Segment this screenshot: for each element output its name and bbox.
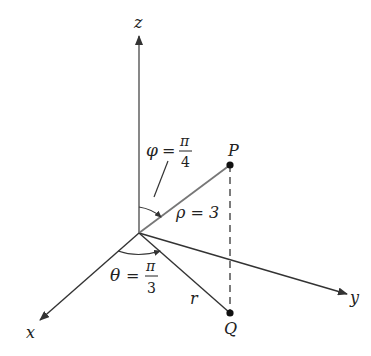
rho-label: ρ = 3: [175, 203, 219, 222]
point-p: [226, 161, 233, 168]
theta-symbol: θ: [110, 265, 120, 285]
x-axis-label: x: [26, 323, 35, 342]
theta-denominator: 3: [147, 280, 156, 296]
point-p-label: P: [227, 141, 239, 160]
phi-leader-line: [154, 161, 168, 197]
phi-denominator: 4: [181, 154, 190, 170]
spherical-coordinates-diagram: z x y P Q φ = π 4 ρ = 3 θ = π 3 r: [0, 0, 371, 356]
phi-angle-arc: [139, 207, 161, 217]
z-axis-label: z: [133, 13, 143, 32]
x-axis: [40, 233, 139, 320]
theta-angle-arc: [118, 251, 160, 255]
y-axis-label: y: [349, 288, 360, 307]
point-q-label: Q: [224, 319, 237, 338]
point-q: [226, 309, 233, 316]
phi-numerator: π: [179, 133, 190, 149]
theta-numerator: π: [145, 258, 156, 274]
phi-symbol: φ: [146, 140, 158, 160]
theta-equals: =: [126, 266, 139, 285]
rho-segment: [139, 165, 230, 233]
phi-equals: =: [162, 141, 175, 160]
r-label: r: [190, 289, 199, 308]
y-axis: [139, 233, 347, 294]
